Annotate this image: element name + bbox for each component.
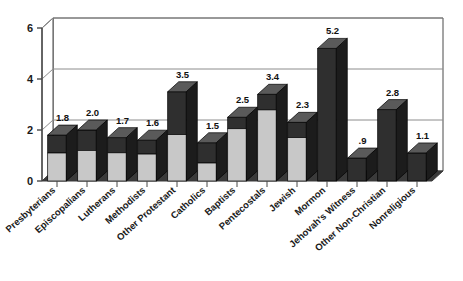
- bar-front-lower: [288, 138, 307, 181]
- bar-front-upper: [288, 122, 307, 137]
- category-axis-labels: PresbyteriansEpiscopaliansLutheransMetho…: [3, 181, 417, 253]
- bar-front-upper: [258, 94, 277, 110]
- bar-side-face: [276, 84, 287, 181]
- bar-front-lower: [228, 129, 247, 181]
- bar-value-label: 3.5: [176, 69, 190, 80]
- y-tick-label: 6: [27, 22, 33, 34]
- bar-column: [378, 100, 408, 181]
- bar-value-label: 5.2: [326, 25, 339, 36]
- bar-front-lower: [168, 135, 187, 181]
- bar-front-lower: [48, 153, 67, 181]
- bar-column: [288, 112, 318, 181]
- bar-front-upper: [168, 92, 187, 135]
- bar-side-face: [186, 82, 197, 181]
- bar-value-label: 3.4: [266, 71, 280, 82]
- bar-column: [138, 130, 168, 181]
- bar-value-label: 2.0: [86, 107, 99, 118]
- bar-column: [78, 120, 108, 181]
- bar-column: [108, 128, 138, 181]
- bar-value-label: 2.8: [386, 87, 399, 98]
- bar-column: [48, 125, 78, 181]
- bar-front-upper: [318, 48, 337, 181]
- bar-value-label: 1.8: [56, 112, 69, 123]
- bar-value-label: 1.1: [416, 130, 430, 141]
- bar-column: [228, 107, 258, 181]
- bar-value-label: 1.5: [206, 120, 220, 131]
- y-tick-label: 0: [27, 175, 33, 187]
- bar-front-upper: [378, 110, 397, 181]
- bar-column: [168, 82, 198, 181]
- bar-chart-figure: 0246 1.82.01.71.63.51.52.53.42.35.2.92.8…: [0, 0, 463, 281]
- y-tick-label: 2: [27, 124, 33, 136]
- bar-front-lower: [258, 110, 277, 181]
- chart-canvas: 0246 1.82.01.71.63.51.52.53.42.35.2.92.8…: [0, 0, 463, 281]
- bar-column: [198, 133, 228, 181]
- bar-front-upper: [138, 140, 157, 154]
- bar-front-upper: [228, 117, 247, 128]
- bar-value-label: .9: [359, 135, 367, 146]
- bar-front-upper: [408, 153, 427, 181]
- bar-side-face: [396, 100, 407, 181]
- bar-front-upper: [108, 138, 127, 153]
- bar-front-lower: [108, 153, 127, 181]
- bar-front-upper: [48, 135, 67, 153]
- bar-front-lower: [78, 150, 97, 181]
- bar-side-face: [336, 38, 347, 181]
- bar-column: [408, 143, 438, 181]
- bar-column: [318, 38, 348, 181]
- bar-front-lower: [198, 163, 217, 181]
- bar-value-label: 2.3: [296, 99, 309, 110]
- bar-front-lower: [138, 154, 157, 181]
- category-label: Presbyterians: [3, 184, 57, 234]
- bar-value-label: 2.5: [236, 94, 250, 105]
- bar-side-face: [96, 120, 107, 181]
- bar-front-upper: [78, 130, 97, 150]
- bar-front-upper: [198, 143, 217, 163]
- bar-value-label: 1.7: [116, 115, 129, 126]
- y-axis: 0246: [27, 22, 42, 187]
- bar-side-face: [306, 112, 317, 181]
- bar-column: [258, 84, 288, 181]
- bar-front-upper: [348, 158, 367, 181]
- bar-side-face: [66, 125, 77, 181]
- y-tick-label: 4: [27, 73, 34, 85]
- bar-value-label: 1.6: [146, 117, 159, 128]
- bar-side-face: [246, 107, 257, 181]
